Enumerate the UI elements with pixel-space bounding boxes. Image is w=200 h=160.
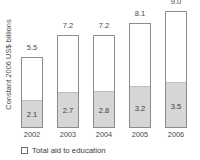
- bar-total-label: 7.2: [90, 21, 118, 30]
- bar-group: 7.2 2.7: [54, 4, 84, 128]
- bar-total[interactable]: 3.2: [129, 23, 151, 128]
- x-axis-tick-label: 2005: [125, 130, 155, 139]
- x-axis-tick-label: 2004: [89, 130, 119, 139]
- x-axis-tick-label: 2006: [161, 130, 191, 139]
- x-axis-tick-label: 2002: [17, 130, 47, 139]
- bar-total-label: 5.5: [18, 43, 46, 52]
- bar-total-label: 7.2: [54, 21, 82, 30]
- bar-segment-shaded[interactable]: 3.5: [166, 82, 186, 127]
- bar-segment-label: 2.8: [94, 106, 114, 115]
- bar-total[interactable]: 2.1: [21, 57, 43, 128]
- x-axis-tick-label: 2003: [53, 130, 83, 139]
- bar-total[interactable]: 2.7: [57, 35, 79, 128]
- bar-segment-label: 2.1: [22, 110, 42, 119]
- bar-total-label: 8.1: [126, 9, 154, 18]
- bar-segment-label: 2.7: [58, 106, 78, 115]
- bar-segment-shaded[interactable]: 3.2: [130, 86, 150, 127]
- bar-group: 8.1 3.2: [126, 4, 156, 128]
- bar-total-label: 9.0: [162, 0, 190, 6]
- legend-item-label: Total aid to education: [32, 146, 106, 155]
- y-axis-title: Constant 2006 US$ billions: [0, 0, 16, 128]
- bar-total[interactable]: 3.5: [165, 11, 187, 128]
- bar-group: 5.5 2.1: [18, 4, 48, 128]
- bar-segment-shaded[interactable]: 2.1: [22, 100, 42, 127]
- chart-container: Constant 2006 US$ billions 5.5 2.1 7.2 2…: [0, 0, 200, 160]
- y-axis-title-text: Constant 2006 US$ billions: [4, 19, 13, 109]
- bar-group: 9.0 3.5: [162, 4, 192, 128]
- plot-area: 5.5 2.1 7.2 2.7 7.2 2.8: [18, 4, 200, 128]
- legend-swatch-icon: [21, 147, 28, 154]
- bar-segment-shaded[interactable]: 2.7: [58, 92, 78, 127]
- bar-total[interactable]: 2.8: [93, 35, 115, 128]
- x-axis-labels: 2002 2003 2004 2005 2006: [18, 130, 200, 142]
- legend: Total aid to education: [21, 146, 106, 155]
- bar-segment-shaded[interactable]: 2.8: [94, 91, 114, 127]
- bar-group: 7.2 2.8: [90, 4, 120, 128]
- bar-segment-label: 3.5: [166, 102, 186, 111]
- bar-segment-label: 3.2: [130, 104, 150, 113]
